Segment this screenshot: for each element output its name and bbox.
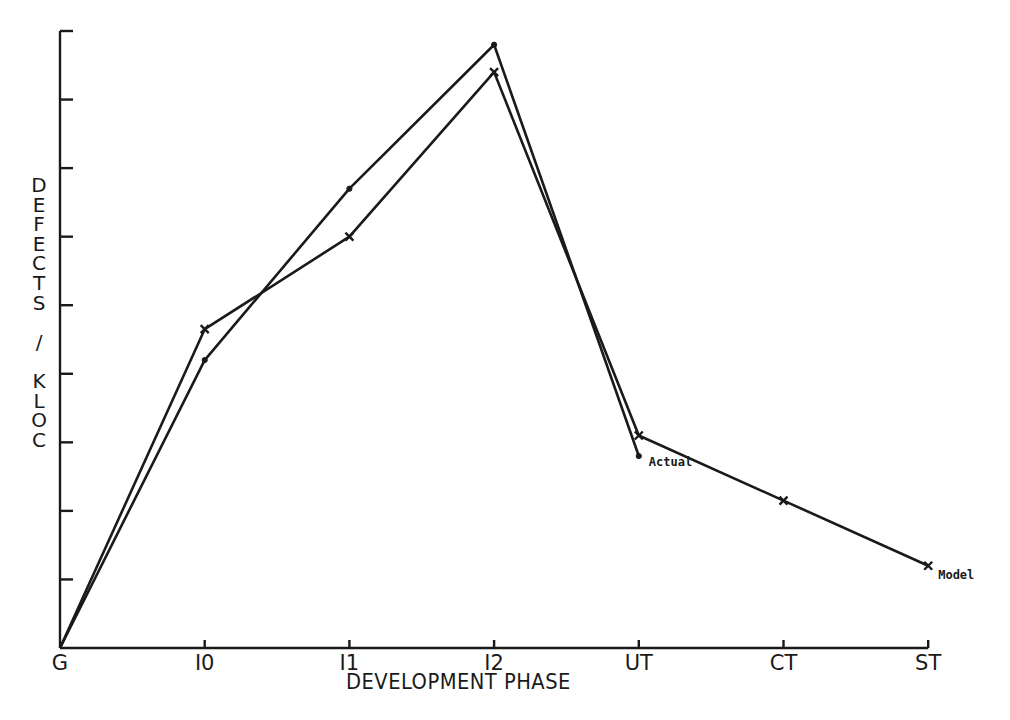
x-tick-label-i2: I2 xyxy=(484,651,504,675)
dot-marker-icon xyxy=(636,453,641,458)
x-tick-label-st: ST xyxy=(915,651,941,675)
axes xyxy=(60,31,928,648)
dot-marker-icon xyxy=(492,42,497,47)
series-line-actual xyxy=(60,45,639,648)
line-chart xyxy=(0,0,1010,720)
y-axis-label: D E F E C T S / K L O C xyxy=(27,176,51,450)
x-tick-label-i0: I0 xyxy=(195,651,215,675)
annotation-model: Model xyxy=(938,568,974,582)
x-marker-icon xyxy=(345,233,353,241)
x-tick-label-g: G xyxy=(52,651,68,675)
series-line-model xyxy=(60,72,928,648)
dot-marker-icon xyxy=(347,186,352,191)
x-tick-label-ct: CT xyxy=(770,651,798,675)
markers xyxy=(201,42,933,570)
series-lines xyxy=(60,45,928,648)
annotation-actual: Actual xyxy=(649,455,692,469)
x-tick-label-i1: I1 xyxy=(340,651,360,675)
dot-marker-icon xyxy=(202,357,207,362)
x-tick-label-ut: UT xyxy=(625,651,653,675)
x-axis-label: DEVELOPMENT PHASE xyxy=(346,670,571,694)
